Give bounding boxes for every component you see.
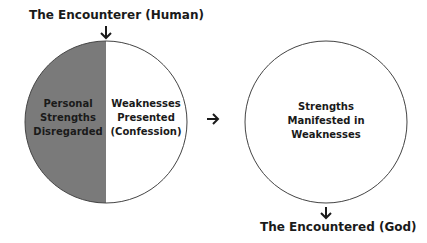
top-down-arrow-icon: [101, 26, 111, 38]
weaknesses-presented-text: Weaknesses Presented (Confession): [108, 97, 184, 139]
bottom-down-arrow-icon: [321, 207, 331, 218]
strengths-manifested-text: Strengths Manifested in Weaknesses: [276, 100, 376, 142]
strengths-disregarded-text: Personal Strengths Disregarded: [33, 97, 103, 139]
encountered-label: The Encountered (God): [260, 220, 417, 234]
right-arrow-icon: [207, 114, 218, 124]
